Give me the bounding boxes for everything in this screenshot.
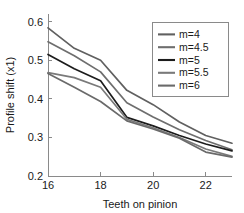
y-axis-label: Profile shift (x1): [4, 57, 16, 133]
chart-legend: m=4m=4.5m=5m=5.5m=6: [152, 22, 228, 96]
x-axis-ticks: 16182022: [42, 172, 212, 191]
x-axis-label: Teeth on pinion: [103, 198, 178, 210]
x-tick-label: 16: [42, 179, 54, 191]
x-tick-label: 20: [147, 179, 159, 191]
legend-label-4: m=6: [179, 79, 200, 91]
y-tick-label: 0.4: [28, 93, 43, 105]
x-tick-label: 22: [200, 179, 212, 191]
line-chart: 16182022 0.20.30.40.50.6 m=4m=4.5m=5m=5.…: [0, 0, 244, 213]
y-tick-label: 0.3: [28, 131, 43, 143]
y-tick-label: 0.5: [28, 54, 43, 66]
y-tick-label: 0.2: [28, 170, 43, 182]
legend-label-0: m=4: [179, 28, 200, 40]
legend-label-2: m=5: [179, 54, 200, 66]
legend-label-1: m=4.5: [179, 41, 209, 53]
y-tick-label: 0.6: [28, 16, 43, 28]
legend-label-3: m=5.5: [179, 66, 209, 78]
chart-figure: 16182022 0.20.30.40.50.6 m=4m=4.5m=5m=5.…: [0, 0, 244, 213]
x-tick-label: 18: [94, 179, 106, 191]
